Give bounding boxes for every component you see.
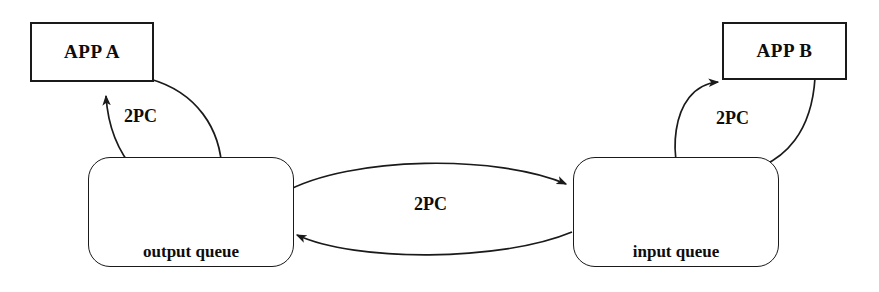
edge-label-output-queue-to-input-queue: 2PC	[414, 194, 447, 215]
app-b-node[interactable]: APP B	[722, 22, 847, 80]
app-a-node[interactable]: APP A	[30, 22, 154, 82]
output-queue-label: output queue	[89, 242, 293, 262]
app-b-label: APP B	[757, 40, 813, 62]
input-queue-label: input queue	[574, 242, 778, 262]
edge-input-queue-to-output-queue	[297, 232, 572, 255]
output-queue-node[interactable]: output queue	[88, 157, 294, 267]
edge-output-queue-to-input-queue	[283, 163, 566, 193]
edge-label-app-a-to-output-queue: 2PC	[124, 106, 157, 127]
diagram-canvas: APP A APP B output queue input queue 2PC…	[0, 0, 879, 292]
edge-label-input-queue-to-app-b: 2PC	[716, 108, 749, 129]
input-queue-node[interactable]: input queue	[573, 157, 779, 267]
app-a-label: APP A	[64, 41, 120, 63]
